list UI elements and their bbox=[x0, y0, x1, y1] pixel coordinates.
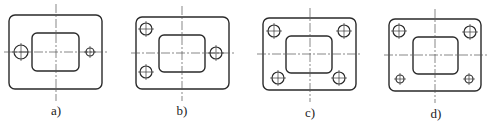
bolt-hole-icon bbox=[394, 73, 406, 85]
panel-label: a) bbox=[51, 103, 61, 118]
bolt-hole-icon bbox=[208, 45, 224, 61]
panel-d: d) bbox=[384, 9, 487, 121]
bolt-hole-icon bbox=[84, 46, 96, 58]
bolt-hole-icon bbox=[336, 23, 352, 39]
bolt-hole-icon bbox=[391, 23, 407, 39]
inner-opening bbox=[413, 37, 458, 74]
bolt-hole-icon bbox=[462, 24, 478, 40]
panel-label: d) bbox=[431, 106, 442, 121]
panel-label: b) bbox=[177, 103, 188, 118]
panel-b: b) bbox=[131, 6, 236, 118]
bolt-hole-icon bbox=[463, 73, 475, 85]
inner-opening bbox=[286, 36, 332, 73]
panel-c: c) bbox=[257, 8, 362, 120]
panel-a: a) bbox=[4, 4, 108, 118]
bolt-hole-icon bbox=[138, 64, 154, 80]
bolt-hole-icon bbox=[138, 21, 154, 37]
bolt-hole-icon bbox=[266, 23, 282, 39]
bolt-hole-icon bbox=[12, 43, 30, 61]
bolt-hole-icon bbox=[331, 70, 347, 86]
bolt-hole-icon bbox=[270, 70, 286, 86]
flange-layouts-diagram: a)b)c)d) bbox=[0, 0, 488, 134]
panel-label: c) bbox=[305, 105, 315, 120]
